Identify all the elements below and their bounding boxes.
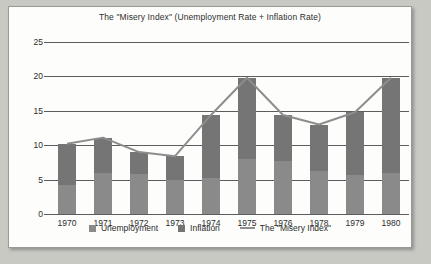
plot-area: 0510152025 19701971197219731974197519761… [49, 42, 409, 214]
legend-swatch-icon [178, 225, 185, 232]
legend-item: Unemployment [89, 223, 158, 233]
y-tick-label: 20 [17, 71, 43, 81]
legend-line-icon [240, 227, 255, 229]
gridline [49, 214, 409, 215]
legend-swatch-icon [89, 225, 96, 232]
legend-label: Inflation [190, 223, 220, 233]
y-tick-label: 15 [17, 106, 43, 116]
y-tick-label: 25 [17, 37, 43, 47]
legend-item: The "Misery Index" [240, 223, 331, 233]
chart-title: The "Misery Index" (Unemployment Rate + … [9, 12, 411, 22]
chart-legend: UnemploymentInflationThe "Misery Index" [9, 223, 411, 233]
chart-figure: The "Misery Index" (Unemployment Rate + … [8, 6, 412, 248]
y-tick-label: 0 [17, 209, 43, 219]
legend-label: The "Misery Index" [260, 223, 331, 233]
misery-index-line [49, 42, 409, 214]
y-tick-label: 10 [17, 140, 43, 150]
legend-item: Inflation [178, 223, 220, 233]
legend-label: Unemployment [101, 223, 158, 233]
y-tick-label: 5 [17, 175, 43, 185]
y-tick-mark [44, 214, 49, 215]
